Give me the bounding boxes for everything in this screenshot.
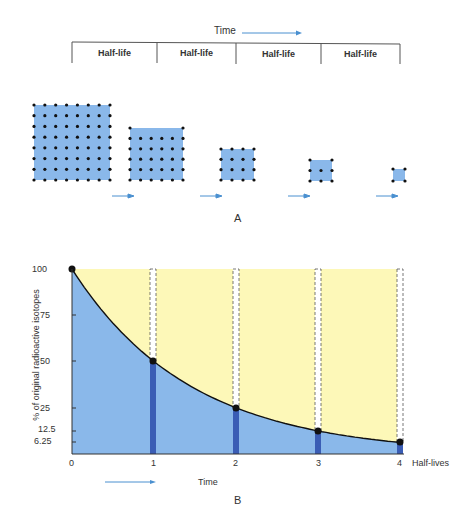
panel-a-label: A — [234, 212, 241, 224]
half-life-header-4: Half-life — [321, 49, 400, 59]
y-axis-label: % of original radioactive isotopes — [31, 255, 41, 455]
isotope-square-2 — [128, 126, 184, 181]
x-tick-2: 2 — [233, 458, 238, 468]
isotope-square-4 — [308, 158, 333, 182]
x-tick-0: 0 — [69, 458, 74, 468]
time-arrow-icon — [150, 480, 156, 484]
x-axis-label: Half-lives — [412, 458, 449, 468]
x-tick-1: 1 — [151, 458, 156, 468]
panel-b-time-label: Time — [198, 477, 218, 487]
panel-b-label: B — [234, 494, 241, 506]
x-tick-4: 4 — [397, 458, 402, 468]
half-life-header-2: Half-life — [157, 48, 236, 58]
y-tick-50: 50 — [40, 356, 50, 366]
isotope-square-1 — [32, 103, 111, 181]
arrow-icons — [112, 194, 398, 198]
y-tick-75: 75 — [40, 310, 50, 320]
half-life-header-1: Half-life — [72, 48, 157, 58]
isotope-square-5 — [391, 167, 406, 182]
panel-a-graphic — [0, 0, 467, 240]
x-tick-3: 3 — [316, 458, 321, 468]
y-tick-25: 25 — [40, 403, 50, 413]
isotope-square-3 — [219, 147, 255, 181]
half-life-header-3: Half-life — [236, 49, 321, 59]
decay-chart — [0, 240, 467, 525]
